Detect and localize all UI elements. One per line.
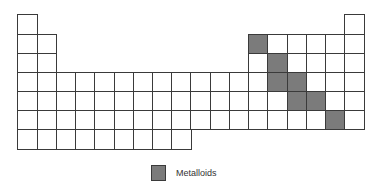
element-cell bbox=[133, 72, 153, 92]
element-cell bbox=[306, 110, 326, 130]
element-cell bbox=[325, 72, 345, 92]
element-cell bbox=[75, 91, 95, 111]
element-cell bbox=[56, 110, 76, 130]
element-cell bbox=[37, 72, 57, 92]
element-cell bbox=[56, 72, 76, 92]
metalloid-cell bbox=[267, 53, 287, 73]
element-cell bbox=[267, 110, 287, 130]
element-cell bbox=[248, 53, 268, 73]
periodic-table-grid bbox=[18, 15, 364, 149]
element-cell bbox=[267, 91, 287, 111]
element-cell bbox=[17, 110, 37, 130]
element-cell bbox=[248, 91, 268, 111]
element-cell bbox=[171, 72, 191, 92]
element-cell bbox=[210, 91, 230, 111]
element-cell bbox=[325, 53, 345, 73]
element-cell bbox=[17, 72, 37, 92]
metalloid-cell bbox=[325, 110, 345, 130]
element-cell bbox=[133, 129, 153, 149]
element-cell bbox=[17, 129, 37, 149]
metalloid-cell bbox=[306, 91, 326, 111]
element-cell bbox=[56, 91, 76, 111]
element-cell bbox=[210, 72, 230, 92]
element-cell bbox=[152, 72, 172, 92]
element-cell bbox=[287, 110, 307, 130]
element-cell bbox=[287, 34, 307, 54]
element-cell bbox=[171, 91, 191, 111]
element-cell bbox=[306, 53, 326, 73]
element-cell bbox=[152, 129, 172, 149]
element-cell bbox=[114, 110, 134, 130]
element-cell bbox=[133, 91, 153, 111]
legend-label: Metalloids bbox=[176, 168, 217, 178]
element-cell bbox=[152, 110, 172, 130]
element-cell bbox=[37, 34, 57, 54]
element-cell bbox=[287, 53, 307, 73]
element-cell bbox=[37, 53, 57, 73]
legend: Metalloids bbox=[151, 164, 217, 182]
element-cell bbox=[344, 110, 364, 130]
element-cell bbox=[190, 72, 210, 92]
element-cell bbox=[190, 110, 210, 130]
element-cell bbox=[17, 14, 37, 34]
element-cell bbox=[75, 129, 95, 149]
element-cell bbox=[267, 34, 287, 54]
element-cell bbox=[114, 72, 134, 92]
element-cell bbox=[133, 110, 153, 130]
element-cell bbox=[210, 110, 230, 130]
element-cell bbox=[171, 129, 191, 149]
element-cell bbox=[325, 34, 345, 54]
element-cell bbox=[56, 129, 76, 149]
element-cell bbox=[344, 34, 364, 54]
metalloid-legend-swatch bbox=[151, 165, 166, 181]
element-cell bbox=[248, 72, 268, 92]
element-cell bbox=[94, 91, 114, 111]
element-cell bbox=[171, 110, 191, 130]
element-cell bbox=[306, 34, 326, 54]
metalloid-cell bbox=[267, 72, 287, 92]
element-cell bbox=[248, 110, 268, 130]
element-cell bbox=[325, 91, 345, 111]
element-cell bbox=[152, 91, 172, 111]
element-cell bbox=[344, 14, 364, 34]
element-cell bbox=[94, 72, 114, 92]
element-cell bbox=[94, 110, 114, 130]
element-cell bbox=[190, 91, 210, 111]
element-cell bbox=[344, 91, 364, 111]
element-cell bbox=[94, 129, 114, 149]
element-cell bbox=[229, 72, 249, 92]
element-cell bbox=[229, 91, 249, 111]
element-cell bbox=[37, 91, 57, 111]
element-cell bbox=[306, 72, 326, 92]
element-cell bbox=[17, 34, 37, 54]
element-cell bbox=[114, 129, 134, 149]
element-cell bbox=[17, 91, 37, 111]
metalloid-cell bbox=[287, 91, 307, 111]
element-cell bbox=[229, 110, 249, 130]
metalloid-cell bbox=[248, 34, 268, 54]
element-cell bbox=[37, 129, 57, 149]
element-cell bbox=[75, 110, 95, 130]
element-cell bbox=[37, 110, 57, 130]
metalloid-cell bbox=[287, 72, 307, 92]
element-cell bbox=[344, 53, 364, 73]
element-cell bbox=[75, 72, 95, 92]
element-cell bbox=[114, 91, 134, 111]
element-cell bbox=[17, 53, 37, 73]
element-cell bbox=[344, 72, 364, 92]
